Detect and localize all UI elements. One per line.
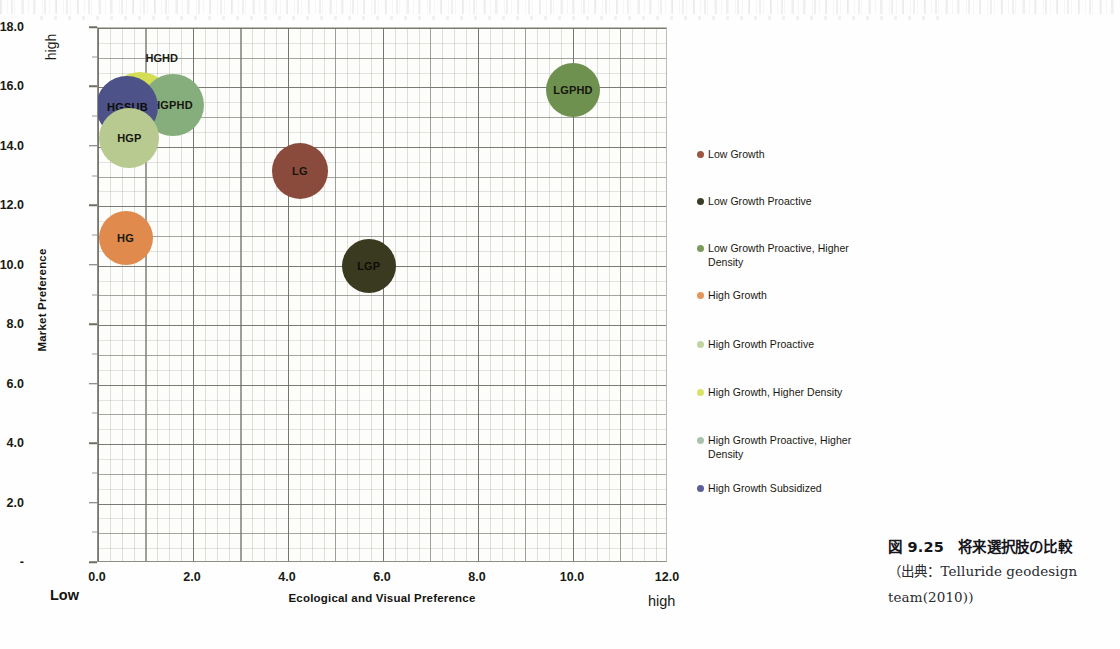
y-tick-mark-minor	[92, 235, 97, 236]
y-tick-mark	[89, 383, 97, 385]
bubble-chart: HGPHDHGSUBHGPHGLGLGPLGPHDHGHD -2.04.06.0…	[0, 0, 700, 620]
y-tick-mark-minor	[92, 413, 97, 414]
plot-area: HGPHDHGSUBHGPHGLGLGPLGPHDHGHD	[97, 27, 667, 562]
legend-label: Low Growth Proactive	[708, 195, 812, 209]
legend-label: Low Growth Proactive, Higher Density	[708, 242, 887, 269]
x-tick-label: 4.0	[257, 570, 317, 584]
legend-label: High Growth, Higher Density	[708, 386, 842, 400]
y-tick-label: 10.0	[0, 258, 24, 272]
bubble-label: LGPHD	[553, 84, 593, 96]
y-tick-label: 8.0	[0, 317, 24, 331]
y-tick-mark-minor	[92, 294, 97, 295]
x-axis-low-label: Low	[50, 587, 79, 603]
legend-item-1[interactable]: Low Growth Proactive	[697, 195, 887, 209]
caption-source-line-2: team(2010))	[888, 584, 1120, 610]
caption-title: 図 9.25 将来選択肢の比較	[888, 536, 1120, 558]
bubble-hgp[interactable]: HGP	[99, 108, 159, 168]
x-axis-title: Ecological and Visual Preference	[288, 592, 475, 604]
y-tick-mark	[89, 323, 97, 325]
y-tick-label: 2.0	[0, 496, 24, 510]
legend-swatch-icon	[697, 292, 704, 299]
y-tick-mark-minor	[92, 56, 97, 57]
bubble-label: HG	[117, 232, 134, 244]
legend-label: Low Growth	[708, 148, 765, 162]
bubble-label-hghd: HGHD	[146, 52, 178, 64]
legend-swatch-icon	[697, 198, 704, 205]
figure-caption: 図 9.25 将来選択肢の比較 （出典：Telluride geodesign …	[888, 536, 1120, 610]
y-tick-label: 16.0	[0, 79, 24, 93]
x-tick-label: 2.0	[162, 570, 222, 584]
y-tick-mark	[89, 502, 97, 504]
legend-item-5[interactable]: High Growth, Higher Density	[697, 386, 887, 400]
legend-item-7[interactable]: High Growth Subsidized	[697, 482, 887, 496]
bubble-lgphd[interactable]: LGPHD	[546, 63, 600, 117]
y-tick-label: 12.0	[0, 198, 24, 212]
y-tick-mark	[89, 26, 97, 28]
x-tick-label: 10.0	[542, 570, 602, 584]
legend-swatch-icon	[697, 341, 704, 348]
y-axis-high-label: high	[43, 34, 59, 60]
x-tick-label: 6.0	[352, 570, 412, 584]
x-axis-high-label: high	[648, 593, 675, 609]
caption-source-line-1: （出典：Telluride geodesign	[888, 558, 1120, 584]
y-tick-mark-minor	[92, 175, 97, 176]
legend-item-0[interactable]: Low Growth	[697, 148, 887, 162]
y-tick-mark-minor	[92, 472, 97, 473]
y-tick-mark-minor	[92, 353, 97, 354]
bubble-label: HGP	[117, 132, 141, 144]
y-tick-label: -	[0, 555, 24, 569]
y-tick-mark	[89, 205, 97, 207]
y-tick-mark-minor	[92, 116, 97, 117]
legend-label: High Growth Subsidized	[708, 482, 822, 496]
y-tick-mark-minor	[92, 532, 97, 533]
legend-item-3[interactable]: High Growth	[697, 289, 887, 303]
y-axis-title: Market Preference	[36, 248, 48, 351]
bubble-hg[interactable]: HG	[99, 211, 153, 265]
legend-swatch-icon	[697, 245, 704, 252]
bubble-lg[interactable]: LG	[272, 143, 328, 199]
y-tick-label: 6.0	[0, 377, 24, 391]
y-tick-mark	[89, 442, 97, 444]
legend-item-6[interactable]: High Growth Proactive, Higher Density	[697, 434, 887, 461]
legend-label: High Growth Proactive	[708, 338, 814, 352]
legend-swatch-icon	[697, 151, 704, 158]
legend-label: High Growth Proactive, Higher Density	[708, 434, 887, 461]
legend-swatch-icon	[697, 437, 704, 444]
y-tick-mark	[89, 145, 97, 147]
legend-swatch-icon	[697, 485, 704, 492]
y-tick-label: 18.0	[0, 20, 24, 34]
legend-label: High Growth	[708, 289, 767, 303]
x-tick-label: 8.0	[447, 570, 507, 584]
legend-item-4[interactable]: High Growth Proactive	[697, 338, 887, 352]
y-tick-mark	[89, 86, 97, 88]
bubble-lgp[interactable]: LGP	[342, 239, 396, 293]
bubble-label: LG	[292, 165, 308, 177]
legend-swatch-icon	[697, 389, 704, 396]
x-tick-label: 0.0	[67, 570, 127, 584]
figure-page: HGPHDHGSUBHGPHGLGLGPLGPHDHGHD -2.04.06.0…	[0, 0, 1120, 649]
y-tick-label: 4.0	[0, 436, 24, 450]
bubble-label: LGP	[357, 260, 380, 272]
y-tick-mark	[89, 264, 97, 266]
y-tick-label: 14.0	[0, 139, 24, 153]
y-tick-mark	[89, 561, 97, 563]
legend-item-2[interactable]: Low Growth Proactive, Higher Density	[697, 242, 887, 269]
x-tick-label: 12.0	[637, 570, 697, 584]
